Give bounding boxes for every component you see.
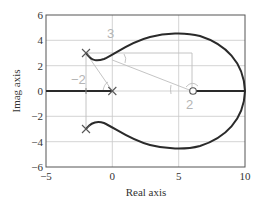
svg-text:6: 6 xyxy=(38,9,44,21)
root-locus-chart: 3 −2 2 −5 0 5 10 6 4 2 0 −2 −4 −6 xyxy=(0,0,265,205)
svg-text:2: 2 xyxy=(38,60,44,72)
annotation-minus-2: −2 xyxy=(71,72,86,87)
zero-icon xyxy=(190,88,197,95)
y-axis-label: Imag axis xyxy=(10,69,22,112)
svg-text:5: 5 xyxy=(176,170,182,182)
x-tick-labels: −5 0 5 10 xyxy=(40,170,251,182)
svg-text:4: 4 xyxy=(38,34,44,46)
annotation-3: 3 xyxy=(107,26,114,41)
svg-text:−6: −6 xyxy=(31,161,43,173)
svg-text:10: 10 xyxy=(240,170,252,182)
upper-branch xyxy=(86,33,245,91)
svg-text:0: 0 xyxy=(38,85,44,97)
svg-text:−2: −2 xyxy=(31,110,43,122)
x-axis-label: Real axis xyxy=(126,186,167,198)
lower-branch xyxy=(86,91,245,149)
svg-text:0: 0 xyxy=(110,170,116,182)
y-tick-labels: 6 4 2 0 −2 −4 −6 xyxy=(31,9,43,173)
svg-text:−4: −4 xyxy=(31,136,43,148)
annotation-2: 2 xyxy=(186,97,193,112)
